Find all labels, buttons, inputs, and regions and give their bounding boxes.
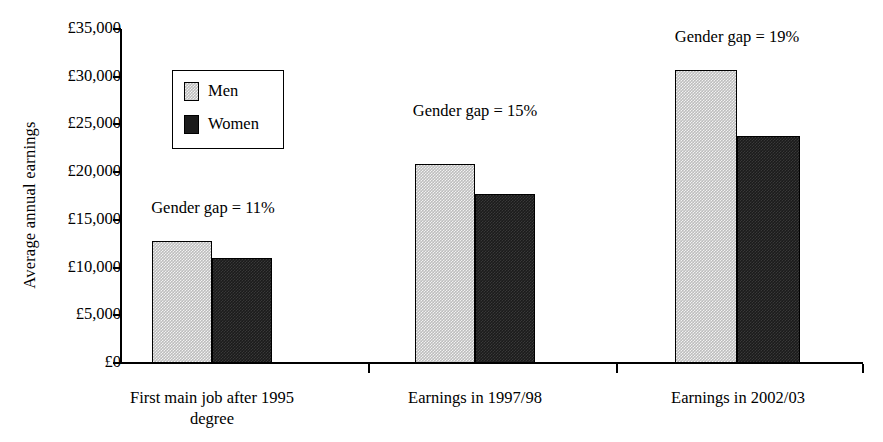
legend-swatch-women-icon (184, 115, 199, 134)
category-label-group-2: Earnings in 1997/98 (385, 388, 565, 409)
category-label-line-1: First main job after 1995 (112, 388, 312, 409)
bar-women-group-3[interactable] (737, 136, 800, 363)
category-label-line-1: Earnings in 1997/98 (385, 388, 565, 409)
legend-swatch-men-icon (184, 82, 199, 101)
legend-item-women[interactable]: Women (184, 114, 259, 134)
bar-men-group-2[interactable] (415, 164, 475, 363)
bar-women-group-2[interactable] (475, 194, 535, 363)
category-label-line-2: degree (112, 409, 312, 430)
annotation-gender-gap-3: Gender gap = 19% (657, 27, 817, 47)
bar-men-group-3[interactable] (675, 70, 737, 363)
bar-chart: Average annual earnings £35,000 £30,000 … (0, 0, 883, 442)
legend-item-men[interactable]: Men (184, 81, 238, 101)
bar-women-group-1[interactable] (212, 258, 272, 363)
annotation-gender-gap-1: Gender gap = 11% (133, 198, 293, 218)
legend: Men Women (172, 70, 284, 149)
category-label-line-1: Earnings in 2002/03 (648, 388, 828, 409)
category-label-group-3: Earnings in 2002/03 (648, 388, 828, 409)
legend-label-women: Women (208, 114, 259, 134)
annotation-gender-gap-2: Gender gap = 15% (395, 101, 555, 121)
plot-area (0, 0, 883, 442)
category-label-group-1: First main job after 1995 degree (112, 388, 312, 429)
bar-men-group-1[interactable] (152, 241, 212, 363)
legend-label-men: Men (208, 81, 238, 101)
